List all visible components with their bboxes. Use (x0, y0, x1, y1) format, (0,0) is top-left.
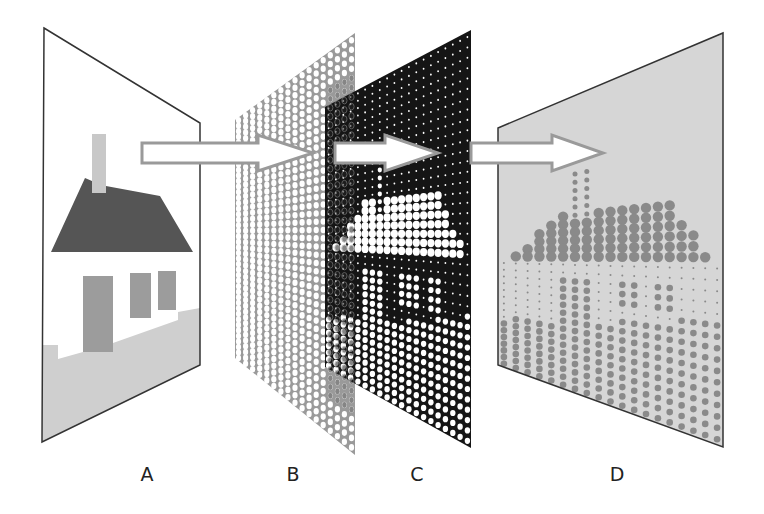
label-a: A (141, 463, 154, 485)
chimney (92, 134, 106, 193)
door (83, 276, 113, 352)
halftone-diagram (0, 0, 764, 514)
panel-d-halftone-result (498, 33, 723, 447)
label-c: C (410, 463, 423, 485)
label-b: B (286, 463, 299, 485)
panel-a-original-image (42, 28, 200, 442)
window (130, 273, 151, 318)
panel-c-screened-image (325, 30, 471, 448)
diagram-canvas (0, 0, 764, 514)
label-d: D (610, 463, 625, 485)
window (158, 271, 176, 310)
